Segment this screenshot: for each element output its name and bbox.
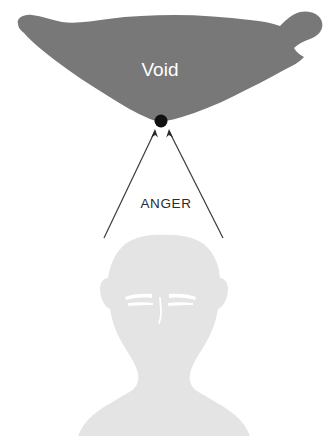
anger-label: ANGER	[140, 196, 191, 211]
void-shape-group: Void	[18, 11, 323, 121]
anger-arrow-left-head	[151, 129, 158, 138]
convergence-dot	[155, 115, 168, 128]
head-and-shoulders-shape	[78, 235, 250, 436]
head-silhouette-group	[78, 235, 250, 436]
anger-arrow-left-line	[104, 131, 155, 238]
void-label: Void	[142, 59, 179, 80]
diagram-canvas: Void ANGER	[0, 0, 328, 436]
anger-arrows-group: ANGER	[104, 129, 223, 238]
concept-diagram: Void ANGER	[0, 0, 328, 436]
anger-arrow-right-line	[169, 131, 223, 238]
anger-arrow-right-head	[166, 129, 173, 138]
